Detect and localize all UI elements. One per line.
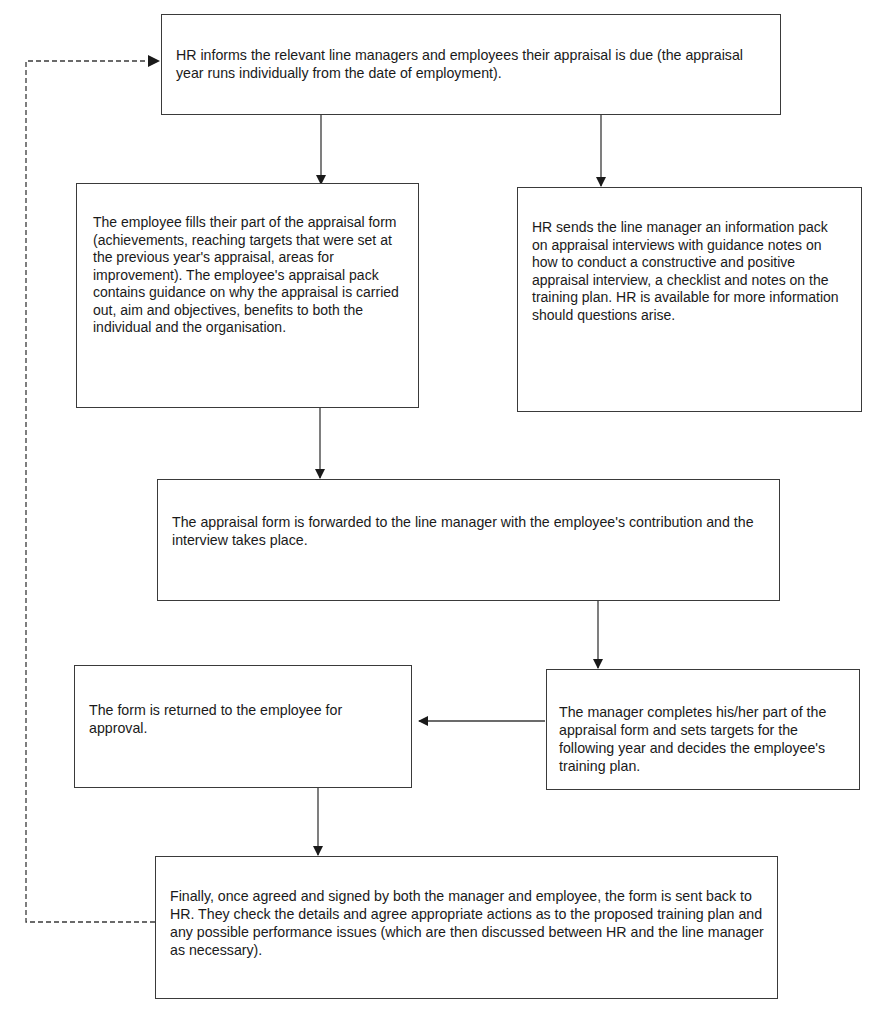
step-6-text: Finally, once agreed and signed by both …: [170, 887, 765, 959]
step-5-box: The form is returned to the employee for…: [74, 665, 412, 788]
step-1-box: HR informs the relevant line managers an…: [161, 14, 781, 115]
step-6-box: Finally, once agreed and signed by both …: [155, 856, 778, 999]
step-2b-box: HR sends the line manager an information…: [517, 187, 862, 412]
step-2a-text: The employee fills their part of the app…: [93, 214, 404, 337]
feedback-arrowhead: [148, 55, 160, 67]
step-5-text: The form is returned to the employee for…: [89, 701, 397, 737]
step-2a-box: The employee fills their part of the app…: [76, 183, 419, 408]
step-4-text: The manager completes his/her part of th…: [559, 703, 847, 775]
step-3-box: The appraisal form is forwarded to the l…: [157, 479, 780, 601]
step-4-box: The manager completes his/her part of th…: [546, 669, 860, 790]
step-1-text: HR informs the relevant line managers an…: [176, 46, 766, 82]
step-2b-text: HR sends the line manager an information…: [532, 219, 847, 324]
step-3-text: The appraisal form is forwarded to the l…: [172, 513, 765, 549]
